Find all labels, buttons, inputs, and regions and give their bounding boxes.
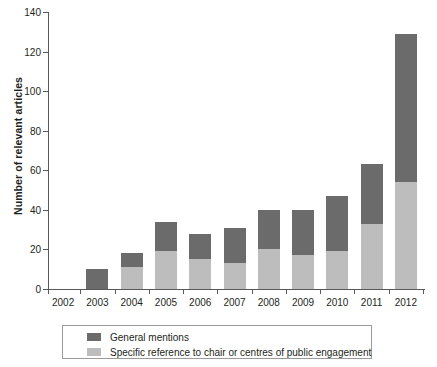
x-tick-label: 2012 <box>395 297 417 308</box>
y-axis-title: Number of relevant articles <box>12 46 24 246</box>
x-axis-line <box>48 289 425 290</box>
bar-2010 <box>326 196 348 289</box>
bar-segment-general-mentions <box>292 210 314 256</box>
y-tick-label: 60 <box>30 165 41 176</box>
bar-2008 <box>258 210 280 289</box>
bar-2003 <box>86 269 108 289</box>
x-tick-mark <box>286 289 287 294</box>
x-tick-label: 2011 <box>361 297 383 308</box>
x-tick-label: 2002 <box>52 297 74 308</box>
bar-2009 <box>292 210 314 289</box>
x-tick-mark <box>80 289 81 294</box>
x-tick-mark <box>389 289 390 294</box>
bar-segment-general-mentions <box>121 253 143 267</box>
x-tick-mark <box>115 289 116 294</box>
bar-segment-general-mentions <box>189 234 211 260</box>
bar-segment-specific-reference <box>258 249 280 289</box>
bar-segment-specific-reference <box>121 267 143 289</box>
y-tick-mark <box>43 131 48 132</box>
plot-area: 020406080100120140 200220032004200520062… <box>48 12 425 289</box>
x-tick-label: 2003 <box>86 297 108 308</box>
x-tick-label: 2008 <box>258 297 280 308</box>
bar-segment-general-mentions <box>224 228 246 264</box>
y-tick-mark <box>43 249 48 250</box>
bar-segment-specific-reference <box>224 263 246 289</box>
y-tick-label: 140 <box>24 7 41 18</box>
x-tick-mark <box>183 289 184 294</box>
legend-label: Specific reference to chair or centres o… <box>110 347 371 358</box>
legend-swatch <box>87 348 101 356</box>
bar-2005 <box>155 222 177 289</box>
bar-2006 <box>189 234 211 289</box>
bar-2012 <box>395 34 417 289</box>
x-tick-mark <box>354 289 355 294</box>
bar-2004 <box>121 253 143 289</box>
stacked-bar-chart-figure: Number of relevant articles 020406080100… <box>0 0 437 367</box>
x-tick-mark <box>423 289 424 294</box>
bar-segment-specific-reference <box>326 251 348 289</box>
chart-legend: General mentionsSpecific reference to ch… <box>62 325 372 359</box>
x-tick-mark <box>320 289 321 294</box>
bar-segment-general-mentions <box>326 196 348 251</box>
y-tick-mark <box>43 210 48 211</box>
y-axis-line <box>48 12 49 289</box>
legend-item: Specific reference to chair or centres o… <box>87 345 371 359</box>
y-tick-mark <box>43 12 48 13</box>
y-tick-label: 120 <box>24 46 41 57</box>
y-tick-label: 40 <box>30 204 41 215</box>
x-tick-label: 2010 <box>326 297 348 308</box>
legend-item: General mentions <box>87 330 371 344</box>
bar-segment-general-mentions <box>395 34 417 182</box>
y-tick-label: 100 <box>24 86 41 97</box>
bar-segment-specific-reference <box>155 251 177 289</box>
bar-segment-general-mentions <box>258 210 280 250</box>
bar-segment-general-mentions <box>86 269 108 289</box>
bar-2007 <box>224 228 246 289</box>
x-tick-mark <box>217 289 218 294</box>
x-tick-mark <box>149 289 150 294</box>
x-tick-label: 2007 <box>223 297 245 308</box>
y-tick-mark <box>43 91 48 92</box>
x-tick-label: 2006 <box>189 297 211 308</box>
y-tick-mark <box>43 170 48 171</box>
bar-segment-general-mentions <box>155 222 177 252</box>
x-tick-mark <box>252 289 253 294</box>
bar-segment-specific-reference <box>395 182 417 289</box>
bar-2011 <box>361 164 383 289</box>
x-tick-mark <box>48 289 49 294</box>
y-tick-label: 0 <box>35 284 41 295</box>
legend-label: General mentions <box>110 332 189 343</box>
y-tick-mark <box>43 52 48 53</box>
y-tick-label: 80 <box>30 125 41 136</box>
bar-segment-specific-reference <box>361 224 383 289</box>
legend-swatch <box>87 333 101 341</box>
x-tick-label: 2004 <box>121 297 143 308</box>
bar-segment-general-mentions <box>361 164 383 223</box>
x-tick-label: 2005 <box>155 297 177 308</box>
y-tick-label: 20 <box>30 244 41 255</box>
bar-segment-specific-reference <box>292 255 314 289</box>
x-tick-label: 2009 <box>292 297 314 308</box>
bar-segment-specific-reference <box>189 259 211 289</box>
